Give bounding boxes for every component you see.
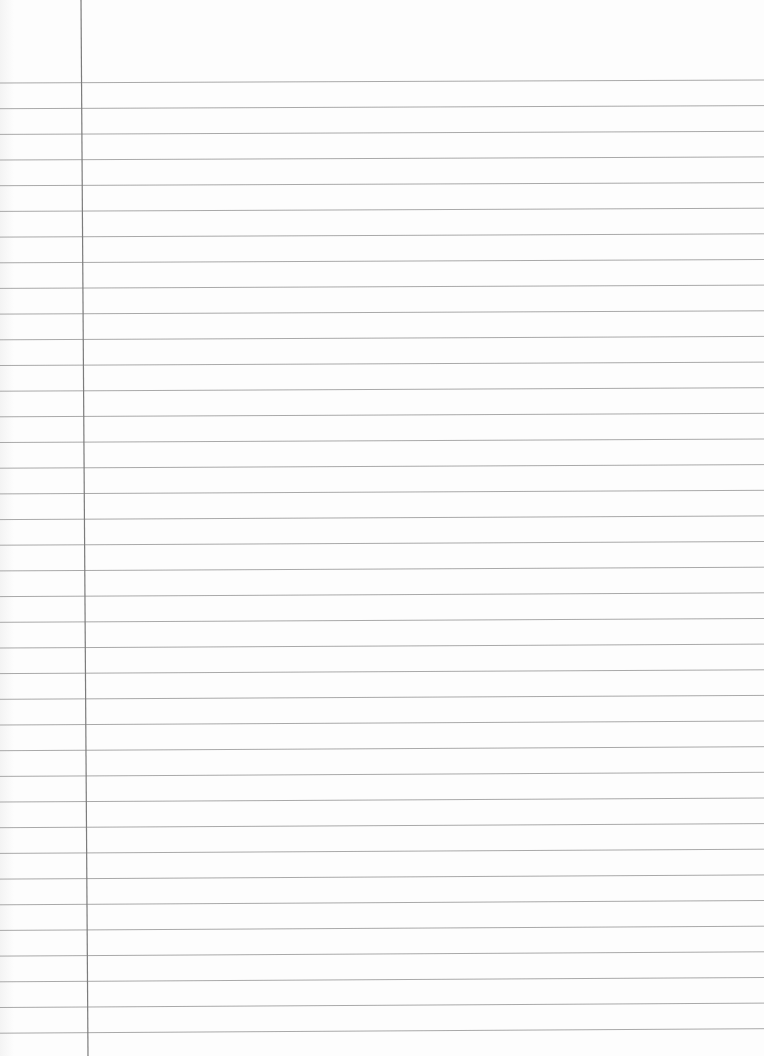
- rule-line: [0, 824, 764, 828]
- rule-line: [0, 208, 764, 211]
- rule-line: [0, 593, 764, 597]
- rule-line: [0, 875, 764, 879]
- rule-line: [0, 772, 764, 776]
- rule-line: [0, 695, 764, 699]
- rule-line: [0, 80, 764, 83]
- rule-line: [0, 747, 764, 751]
- rule-line: [0, 465, 764, 469]
- rule-line: [0, 952, 764, 956]
- rule-line: [0, 926, 764, 930]
- rule-line: [0, 619, 764, 623]
- rule-line: [0, 285, 764, 288]
- rule-line: [0, 516, 764, 520]
- ruled-lines: [0, 0, 764, 1056]
- rule-line: [0, 183, 764, 186]
- rule-line: [0, 1003, 764, 1007]
- rule-line: [0, 106, 764, 109]
- rule-line: [0, 644, 764, 648]
- rule-line: [0, 542, 764, 546]
- rule-line: [0, 413, 764, 417]
- rule-line: [0, 157, 764, 160]
- rule-line: [0, 260, 764, 263]
- rule-line: [0, 388, 764, 392]
- rule-line: [0, 849, 764, 853]
- rule-line: [0, 901, 764, 905]
- rule-line: [0, 311, 764, 314]
- margin-line: [81, 0, 88, 1056]
- rule-line: [0, 234, 764, 237]
- rule-line: [0, 798, 764, 802]
- rule-line: [0, 1029, 764, 1034]
- rule-line: [0, 978, 764, 982]
- rule-line: [0, 567, 764, 571]
- horizontal-rules: [0, 80, 764, 1033]
- lined-paper-sheet: [0, 0, 764, 1056]
- rule-line: [0, 336, 764, 339]
- rule-line: [0, 131, 764, 134]
- rule-line: [0, 362, 764, 365]
- rule-line: [0, 439, 764, 443]
- rule-line: [0, 721, 764, 725]
- rule-line: [0, 670, 764, 674]
- rule-line: [0, 490, 764, 494]
